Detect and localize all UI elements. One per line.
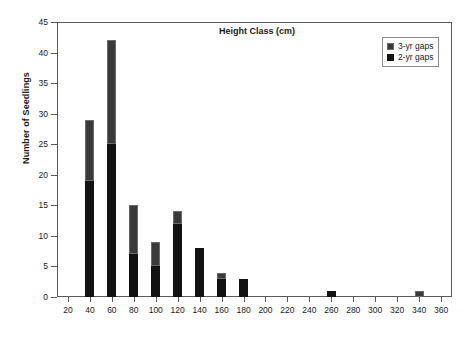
bar-segment-3yr-gaps — [151, 242, 160, 266]
bar-column — [217, 22, 226, 297]
legend-label-3yr: 3-yr gaps — [398, 42, 433, 51]
bar-column — [107, 22, 116, 297]
bar-column — [129, 22, 138, 297]
bar-segment-3yr-gaps — [107, 40, 116, 144]
bar-segment-3yr-gaps — [415, 291, 424, 297]
bar-column — [173, 22, 182, 297]
bar-column — [239, 22, 248, 297]
chart-figure: 051015202530354045 Number of Seedlings 2… — [0, 0, 470, 355]
bar-column — [85, 22, 94, 297]
legend-swatch-hatched-icon — [387, 43, 394, 50]
legend-label-2yr: 2-yr gaps — [398, 53, 433, 62]
bar-segment-2yr-gaps — [195, 248, 204, 297]
legend-item-2yr: 2-yr gaps — [387, 52, 433, 63]
bar-segment-2yr-gaps — [129, 254, 138, 297]
bar-segment-2yr-gaps — [217, 279, 226, 297]
bar-segment-3yr-gaps — [129, 205, 138, 254]
legend-swatch-solid-icon — [387, 54, 394, 61]
bar-segment-2yr-gaps — [239, 279, 248, 297]
bar-segment-2yr-gaps — [151, 266, 160, 297]
chart-legend: 3-yr gaps 2-yr gaps — [382, 37, 439, 67]
bar-segment-2yr-gaps — [327, 291, 336, 297]
bar-segment-3yr-gaps — [85, 120, 94, 181]
bar-segment-3yr-gaps — [217, 273, 226, 279]
bar-segment-2yr-gaps — [107, 144, 116, 297]
bar-column — [151, 22, 160, 297]
bar-column — [327, 22, 336, 297]
bar-segment-2yr-gaps — [85, 181, 94, 297]
bar-segment-2yr-gaps — [173, 224, 182, 297]
bar-column — [195, 22, 204, 297]
legend-item-3yr: 3-yr gaps — [387, 41, 433, 52]
bar-segment-3yr-gaps — [173, 211, 182, 223]
